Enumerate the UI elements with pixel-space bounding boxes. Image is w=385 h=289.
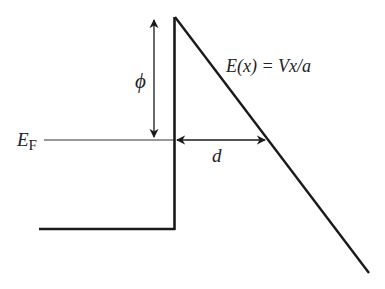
fermi-level-label: EF: [16, 129, 37, 153]
distance-label: d: [212, 145, 222, 166]
work-function-label: ϕ: [135, 69, 146, 93]
field-equation-label: E(x) = Vx/a: [225, 56, 311, 77]
energy-band-diagram: EF ϕ d E(x) = Vx/a: [0, 0, 385, 289]
